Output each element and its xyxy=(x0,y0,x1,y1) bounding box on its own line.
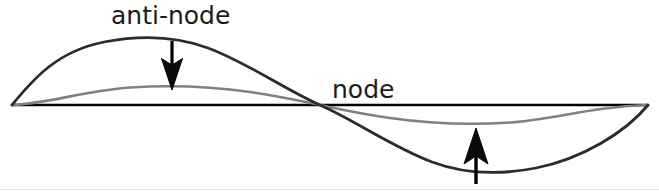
antinode-down-arrow xyxy=(162,41,183,90)
antinode-up-arrow xyxy=(464,128,488,184)
antinode-label: anti-node xyxy=(111,3,230,28)
wave-diagram-canvas xyxy=(0,0,659,191)
node-label: node xyxy=(332,77,394,102)
standing-wave-figure: anti-node node xyxy=(0,0,659,191)
